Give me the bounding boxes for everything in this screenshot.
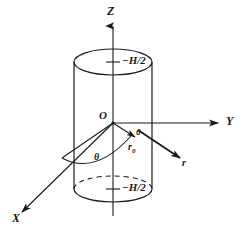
arrow-tip-mark: 6: [136, 128, 141, 137]
theta-angle-label: θ: [94, 152, 99, 162]
origin-label: O: [99, 110, 107, 121]
top-cap-height-label: −H/2: [122, 55, 146, 66]
figure-root: Z Y X −H/2 −H/2 O θ r r0 6: [0, 0, 246, 238]
r-direction-vector: [138, 130, 180, 158]
r0-vector-arrow: [113, 123, 135, 137]
y-axis-label: Y: [226, 115, 233, 127]
x-axis: [22, 123, 113, 212]
x-axis-line: [22, 123, 113, 212]
r0-subscript: 0: [132, 147, 136, 155]
diagram-canvas: [0, 0, 246, 238]
r-vector-label: r: [182, 158, 186, 168]
x-axis-label: X: [12, 212, 20, 224]
origin-point: [111, 121, 114, 124]
z-axis-label: Z: [107, 5, 114, 17]
r0-vector: [113, 123, 135, 137]
bottom-cap-height-label: −H/2: [122, 182, 146, 193]
r-vector-arrow: [138, 130, 180, 158]
theta-sector-edge: [62, 123, 113, 158]
r0-vector-label: r0: [128, 142, 135, 155]
